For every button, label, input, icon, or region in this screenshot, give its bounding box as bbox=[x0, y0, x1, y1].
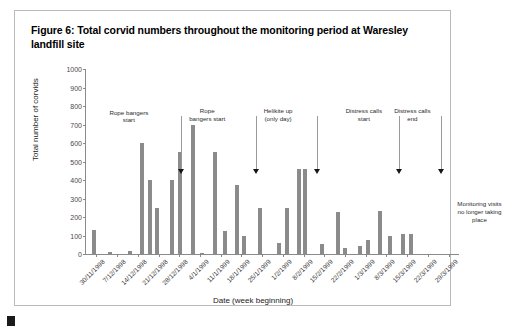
y-tick-label: 900 bbox=[70, 84, 82, 91]
annotation-leader-line bbox=[441, 116, 442, 169]
y-tick-label: 100 bbox=[70, 232, 82, 239]
x-tick-mark bbox=[96, 254, 97, 257]
chart-annotation: Distress calls start bbox=[341, 107, 387, 122]
bar bbox=[378, 211, 382, 254]
x-tick-mark bbox=[117, 254, 118, 257]
bar bbox=[170, 180, 174, 254]
x-tick-label: 30/11/1998 bbox=[69, 258, 106, 295]
x-tick-mark bbox=[428, 254, 429, 257]
chart-annotation: Rope bangers start bbox=[106, 109, 152, 124]
x-tick-mark bbox=[407, 254, 408, 257]
bar bbox=[277, 243, 281, 254]
y-tick-label: 400 bbox=[70, 177, 82, 184]
x-tick-mark bbox=[179, 254, 180, 257]
annotation-arrow-icon bbox=[253, 169, 259, 174]
bar bbox=[148, 180, 152, 254]
bar bbox=[343, 248, 347, 254]
y-tick-label: 1000 bbox=[66, 66, 82, 73]
figure-container: Figure 6: Total corvid numbers throughou… bbox=[14, 10, 451, 306]
y-tick-label: 600 bbox=[70, 140, 82, 147]
x-tick-mark bbox=[283, 254, 284, 257]
y-tick-label: 500 bbox=[70, 158, 82, 165]
bar bbox=[366, 240, 370, 254]
y-tick-mark bbox=[83, 254, 86, 255]
annotation-arrow-icon bbox=[396, 169, 402, 174]
x-tick-mark bbox=[221, 254, 222, 257]
chart-annotation: Distress calls end bbox=[389, 107, 435, 122]
bar bbox=[336, 212, 340, 254]
x-tick-mark bbox=[138, 254, 139, 257]
page-corner-mark bbox=[7, 316, 15, 326]
y-tick-label: 800 bbox=[70, 103, 82, 110]
x-tick-mark bbox=[200, 254, 201, 257]
bar bbox=[235, 185, 239, 254]
x-tick-mark bbox=[386, 254, 387, 257]
y-tick-label: 0 bbox=[78, 251, 82, 258]
bar bbox=[358, 246, 362, 254]
y-tick-label: 200 bbox=[70, 214, 82, 221]
annotation-arrow-icon bbox=[438, 169, 444, 174]
bar bbox=[108, 252, 112, 254]
bar bbox=[128, 251, 132, 254]
x-tick-mark bbox=[262, 254, 263, 257]
x-tick-mark bbox=[159, 254, 160, 257]
annotation-leader-line bbox=[181, 116, 182, 169]
x-tick-mark bbox=[345, 254, 346, 257]
x-tick-mark bbox=[366, 254, 367, 257]
x-tick-mark bbox=[241, 254, 242, 257]
chart-annotation: Rope bangers start bbox=[184, 107, 230, 122]
x-tick-mark bbox=[324, 254, 325, 257]
bar bbox=[258, 208, 262, 254]
bar bbox=[213, 152, 217, 254]
x-tick-mark bbox=[449, 254, 450, 257]
x-tick-mark bbox=[304, 254, 305, 257]
annotation-leader-line bbox=[317, 116, 318, 169]
y-tick-label: 700 bbox=[70, 121, 82, 128]
bar bbox=[320, 244, 324, 254]
bar bbox=[409, 234, 413, 254]
bar bbox=[388, 236, 392, 255]
bar bbox=[303, 169, 307, 254]
x-axis-title: Date (week beginning) bbox=[213, 296, 293, 305]
bar bbox=[140, 143, 144, 254]
bar bbox=[223, 231, 227, 254]
y-axis-title: Total number of corvids bbox=[31, 78, 40, 161]
bar bbox=[297, 169, 301, 254]
figure-caption: Figure 6: Total corvid numbers throughou… bbox=[31, 23, 431, 51]
plot-area: 10009008007006005004003002001000 30/11/1… bbox=[85, 69, 459, 255]
y-tick-label: 300 bbox=[70, 195, 82, 202]
annotation-arrow-icon bbox=[178, 169, 184, 174]
bar bbox=[242, 236, 246, 255]
bar bbox=[200, 253, 204, 254]
bar bbox=[155, 208, 159, 254]
bar-series bbox=[86, 69, 459, 254]
bar bbox=[191, 125, 195, 255]
bar bbox=[92, 230, 96, 254]
bar bbox=[401, 234, 405, 254]
chart-annotation: Helikite up (only day) bbox=[255, 107, 301, 122]
chart-note: Monitoring visits no longer taking place bbox=[449, 200, 506, 223]
annotation-arrow-icon bbox=[314, 169, 320, 174]
annotation-leader-line bbox=[256, 116, 257, 169]
annotation-leader-line bbox=[399, 116, 400, 169]
bar bbox=[285, 208, 289, 254]
